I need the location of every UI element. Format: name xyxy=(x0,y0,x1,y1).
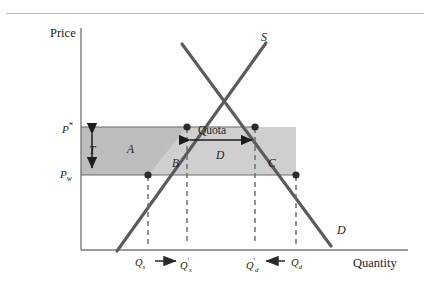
area-label-d: D xyxy=(216,150,224,162)
y-axis-title: Price xyxy=(50,27,76,40)
x-axis-title: Quantity xyxy=(353,257,397,270)
qd-sub: d xyxy=(299,263,303,271)
p-world-sub: w xyxy=(67,174,72,183)
p-star-main: P xyxy=(62,123,69,135)
p-star-sup: * xyxy=(69,120,74,130)
price-label-p-world: Pw xyxy=(60,169,72,183)
supply-demand-quota-figure: Price Quantity P* Pw S D T A B D C Quota… xyxy=(0,0,430,283)
qd-prime-main: Q xyxy=(246,260,254,271)
qd-prime-sub: d xyxy=(255,266,259,274)
quantity-label-qs: Qs xyxy=(135,258,145,271)
demand-curve-label: D xyxy=(337,224,346,236)
quantity-label-qd-prime: Q'd xyxy=(246,258,259,274)
area-label-t: T xyxy=(89,145,95,157)
diagram-canvas xyxy=(0,0,430,283)
qd-main: Q xyxy=(291,257,299,268)
qs-sub: s xyxy=(143,263,146,271)
qs-main: Q xyxy=(135,257,143,268)
supply-curve-label: S xyxy=(261,31,267,43)
area-label-c: C xyxy=(268,158,276,170)
quantity-label-qd: Qd xyxy=(291,258,302,271)
p-world-main: P xyxy=(60,168,67,180)
qs-prime-main: Q xyxy=(180,260,188,271)
price-label-p-star: P* xyxy=(62,121,73,135)
quota-label: Quota xyxy=(198,125,226,137)
qs-prime-sub: s xyxy=(189,266,192,274)
quantity-label-qs-prime: Q's xyxy=(180,258,192,274)
area-label-a: A xyxy=(127,144,134,156)
area-label-b: B xyxy=(172,158,179,170)
